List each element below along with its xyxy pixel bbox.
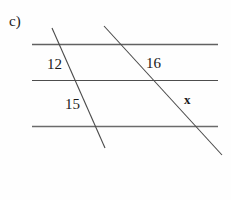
segment-label-16: 16 [146,56,161,71]
segment-label-x: x [184,93,191,106]
left-transversal [52,28,105,148]
segment-label-15: 15 [65,97,80,112]
part-label: c) [9,14,21,29]
right-transversal [104,26,222,155]
segment-label-12: 12 [47,57,62,72]
figure-canvas [0,0,231,200]
geometry-figure: c) 12 16 15 x [0,0,231,200]
